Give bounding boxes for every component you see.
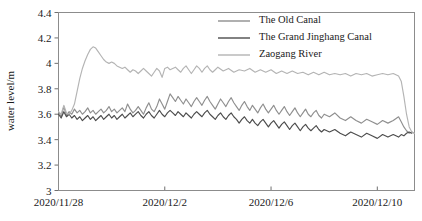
x-tick-label: 2020/11/28 [34, 196, 84, 208]
legend-label: Zaogang River [259, 48, 322, 59]
legend-label: The Grand Jinghang Canal [259, 31, 372, 42]
chart-container: 33.23.43.63.844.24.4 2020/11/282020/12/2… [0, 0, 422, 221]
x-tick-label: 2020/12/2 [142, 196, 187, 208]
y-tick-label: 3.6 [38, 108, 52, 120]
y-tick-label: 4.2 [38, 32, 52, 44]
x-tick-label: 2020/12/6 [249, 196, 294, 208]
water-level-line-chart: 33.23.43.63.844.24.4 2020/11/282020/12/2… [0, 0, 422, 221]
y-axis-title: water level/m [4, 70, 16, 131]
y-tick-label: 3.2 [38, 159, 52, 171]
legend-label: The Old Canal [259, 14, 321, 25]
x-tick-label: 2020/12/10 [352, 196, 403, 208]
y-tick-label: 3.4 [38, 134, 52, 146]
y-tick-label: 4.4 [38, 7, 52, 19]
y-tick-label: 3.8 [38, 83, 52, 95]
y-tick-label: 4 [46, 57, 52, 69]
